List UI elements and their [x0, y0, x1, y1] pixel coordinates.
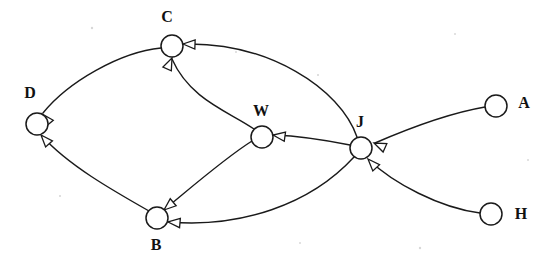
node-label-w: W	[253, 102, 269, 119]
arrowhead-j-to-b	[168, 217, 181, 227]
node-b[interactable]	[146, 207, 168, 229]
node-label-d: D	[24, 84, 36, 101]
edge-c-to-d	[43, 48, 161, 113]
scan-speck	[454, 33, 456, 35]
label-layer: CDWJABH	[24, 8, 530, 253]
node-c[interactable]	[161, 35, 183, 57]
scan-speck	[59, 195, 61, 197]
node-a[interactable]	[485, 95, 507, 117]
node-label-a: A	[518, 94, 530, 111]
node-j[interactable]	[350, 137, 372, 159]
node-d[interactable]	[26, 113, 48, 135]
edge-a-to-j	[375, 107, 485, 143]
edge-w-to-b	[165, 141, 252, 209]
arrowhead-j-to-w	[272, 130, 285, 141]
scan-speck	[317, 74, 319, 76]
edge-b-to-d	[42, 136, 149, 211]
scan-speck	[91, 27, 93, 29]
node-label-b: B	[151, 236, 162, 253]
node-label-h: H	[515, 205, 528, 222]
edge-j-to-b	[169, 157, 354, 223]
node-w[interactable]	[251, 126, 273, 148]
scan-speck	[235, 51, 237, 53]
edge-w-to-c	[172, 59, 254, 129]
edge-h-to-j	[369, 160, 480, 213]
scan-speck	[419, 247, 421, 249]
node-label-c: C	[161, 8, 173, 25]
scan-speck	[527, 159, 529, 161]
node-h[interactable]	[480, 203, 502, 225]
node-label-j: J	[356, 113, 364, 130]
graph-diagram: CDWJABH	[0, 0, 558, 270]
scan-speck	[299, 242, 301, 244]
arrowhead-j-to-c	[183, 39, 195, 49]
edge-j-to-c	[184, 44, 357, 137]
